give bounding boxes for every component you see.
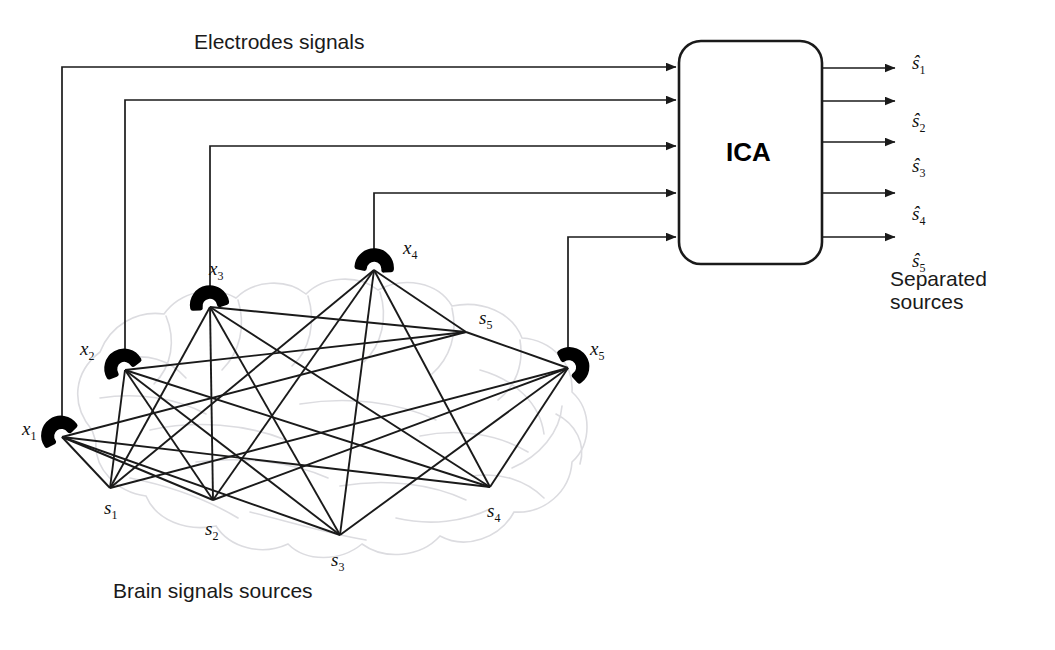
- electrode-label-x3: x3: [209, 258, 223, 284]
- mixing-edge-x3-s5: [210, 307, 466, 332]
- electrode-label-x2-subscript: 2: [88, 349, 94, 363]
- separated-sources-caption: Separated sources: [890, 268, 987, 313]
- source-label-s3-subscript: 3: [338, 560, 344, 574]
- electrode-glyph-x3[interactable]: [190, 285, 227, 309]
- separated-label-s_hat_1-base: ŝ: [912, 52, 919, 73]
- source-label-s4-subscript: 4: [494, 511, 500, 525]
- separated-label-s_hat_5-base: ŝ: [912, 250, 919, 271]
- separated-label-s_hat_3-base: ŝ: [912, 155, 919, 176]
- separated-label-s_hat_5-subscript: 5: [919, 261, 925, 275]
- separated-sources-line1: Separated: [890, 268, 987, 291]
- electrode-signal-path-x3: [210, 146, 676, 295]
- source-label-s2-subscript: 2: [212, 529, 218, 543]
- ica-diagram-svg: [0, 0, 1055, 650]
- separated-label-s_hat_2-subscript: 2: [919, 121, 925, 135]
- electrode-label-x5-subscript: 5: [598, 349, 604, 363]
- electrode-label-x1-subscript: 1: [30, 429, 36, 443]
- brain-signals-sources-title: Brain signals sources: [113, 579, 313, 603]
- mixing-edge-x4-s5: [374, 270, 466, 332]
- brain-outline: [78, 279, 587, 557]
- electrodes-signals-title: Electrodes signals: [194, 30, 364, 54]
- mixing-edge-x2-s3: [125, 370, 340, 535]
- separated-label-s_hat_5: ŝ5: [912, 250, 925, 276]
- separated-label-s_hat_4: ŝ4: [912, 203, 925, 229]
- electrode-label-x1: x1: [22, 418, 36, 444]
- diagram-canvas: Electrodes signals Brain signals sources…: [0, 0, 1055, 650]
- separated-label-s_hat_1: ŝ1: [912, 52, 925, 78]
- separated-label-s_hat_2-base: ŝ: [912, 110, 919, 131]
- source-label-s5-subscript: 5: [486, 318, 492, 332]
- electrode-crescent: [357, 250, 392, 271]
- electrode-signal-path-x4: [374, 193, 676, 258]
- separated-label-s_hat_1-subscript: 1: [919, 63, 925, 77]
- ica-block-label: ICA: [726, 137, 771, 168]
- source-label-s1: s1: [104, 497, 117, 523]
- separated-source-arrows: [822, 68, 895, 237]
- mixing-edge-x3-s3: [210, 307, 340, 535]
- source-label-s1-subscript: 1: [111, 508, 117, 522]
- source-label-s4: s4: [487, 500, 500, 526]
- electrode-label-x5: x5: [590, 338, 604, 364]
- separated-label-s_hat_4-base: ŝ: [912, 203, 919, 224]
- electrode-label-x4-subscript: 4: [411, 248, 417, 262]
- electrode-label-x3-subscript: 3: [217, 269, 223, 283]
- separated-label-s_hat_3: ŝ3: [912, 155, 925, 181]
- mixing-edge-x2-s1: [110, 370, 125, 488]
- electrode-label-x4: x4: [403, 237, 417, 263]
- source-label-s2: s2: [205, 518, 218, 544]
- source-label-s3: s3: [331, 549, 344, 575]
- electrode-crescent: [190, 285, 227, 309]
- source-label-s5: s5: [479, 307, 492, 333]
- separated-label-s_hat_2: ŝ2: [912, 110, 925, 136]
- electrode-signal-path-x5: [568, 237, 676, 356]
- separated-sources-line2: sources: [890, 291, 987, 314]
- separated-label-s_hat_3-subscript: 3: [919, 166, 925, 180]
- mixing-edge-x2-s5: [125, 332, 466, 370]
- electrode-label-x2: x2: [80, 338, 94, 364]
- electrode-glyph-x4[interactable]: [357, 250, 392, 271]
- separated-label-s_hat_4-subscript: 4: [919, 214, 925, 228]
